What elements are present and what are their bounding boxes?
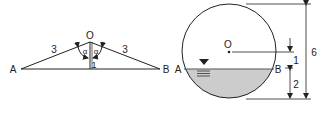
diameter-label: 6 [311, 47, 317, 58]
angle-label-right: α [94, 47, 99, 56]
point-b-label: B [163, 64, 170, 75]
side-length-right: 3 [122, 44, 128, 55]
surface-a-label: A [175, 64, 182, 75]
center-label: O [224, 39, 232, 50]
surface-bottom-label: 2 [293, 79, 299, 90]
center-dot [228, 51, 231, 54]
height-label: 1 [91, 60, 96, 70]
diagram-canvas: O A B 3 3 α α 1 O A B 6 1 [0, 0, 324, 113]
triangle-figure: O A B 3 3 α α 1 [10, 30, 170, 75]
center-surface-label: 1 [293, 55, 299, 66]
surface-b-label: B [275, 64, 282, 75]
angle-label-left: α [83, 47, 88, 56]
point-a-label: A [10, 64, 17, 75]
water-level-triangle-icon [199, 59, 209, 65]
apex-label: O [86, 30, 94, 41]
circle-figure: O A B 6 1 2 [175, 4, 318, 104]
side-length-left: 3 [51, 44, 57, 55]
